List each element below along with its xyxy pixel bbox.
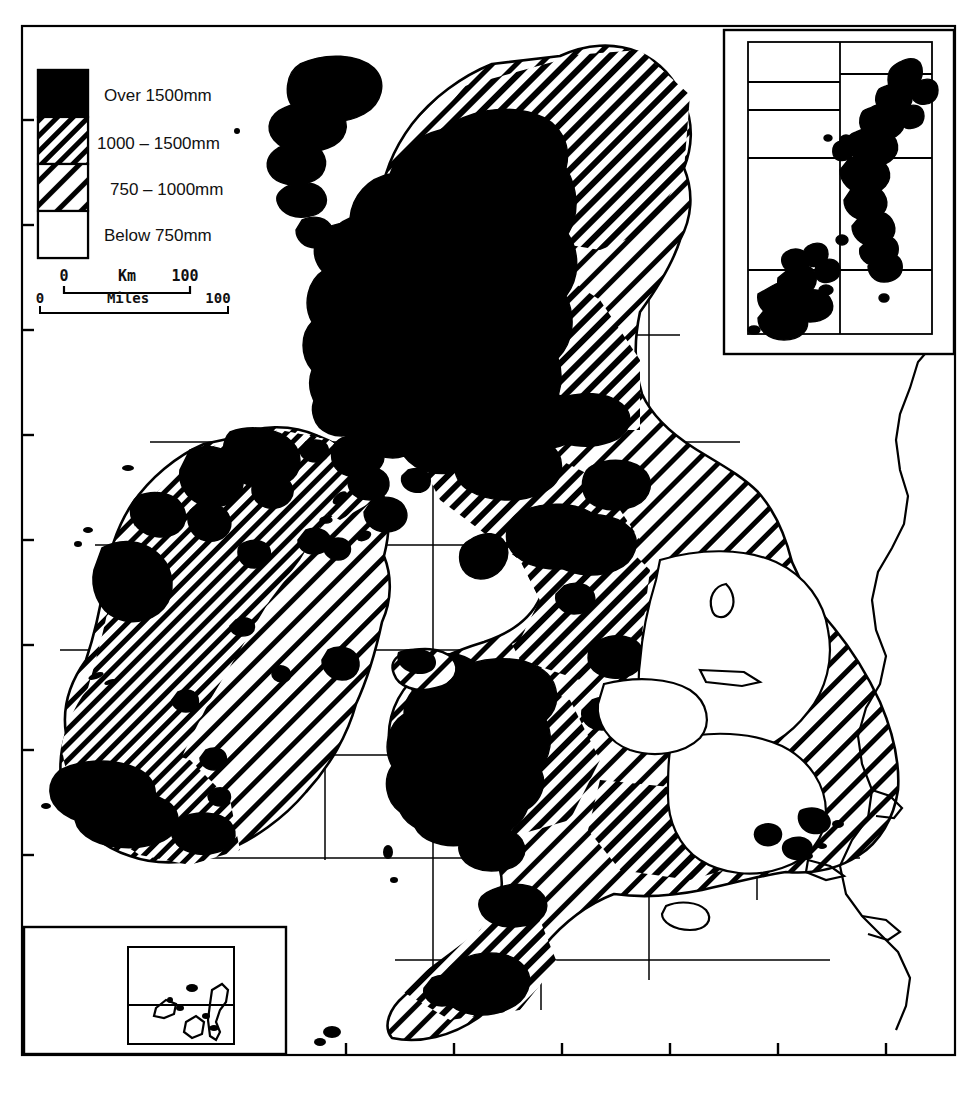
rainfall-legend: Over 1500mm 1000 – 1500mm 750 – 1000mm B… [38, 70, 240, 258]
scale-bars: 0 Km 100 0 Miles 100 [36, 267, 231, 313]
southern-isles-inset [24, 927, 286, 1054]
legend-swatch-2 [38, 164, 88, 211]
miles-scale-unit: Miles [107, 290, 149, 306]
km-scale-min: 0 [59, 267, 68, 285]
region-ireland [41, 427, 390, 868]
map-canvas: Over 1500mm 1000 – 1500mm 750 – 1000mm B… [0, 0, 979, 1098]
legend-swatch-0 [38, 70, 88, 117]
rainfall-map-figure: Over 1500mm 1000 – 1500mm 750 – 1000mm B… [0, 0, 979, 1098]
legend-stray-dot [234, 128, 240, 134]
legend-swatch-3 [38, 211, 88, 258]
legend-label-3: Below 750mm [104, 226, 212, 245]
gb-small-isles [314, 845, 398, 1046]
miles-scale-min: 0 [36, 290, 44, 306]
northern-isles-inset [724, 30, 954, 354]
legend-label-1: 1000 – 1500mm [97, 134, 220, 153]
miles-scale-max: 100 [205, 290, 230, 306]
km-scale-max: 100 [171, 267, 198, 285]
miles-scale-bar [40, 306, 228, 313]
legend-swatch-1 [38, 117, 88, 164]
legend-label-0: Over 1500mm [104, 86, 212, 105]
km-scale-unit: Km [118, 267, 136, 285]
gb-channel-islets [662, 903, 709, 930]
legend-label-2: 750 – 1000mm [110, 180, 223, 199]
